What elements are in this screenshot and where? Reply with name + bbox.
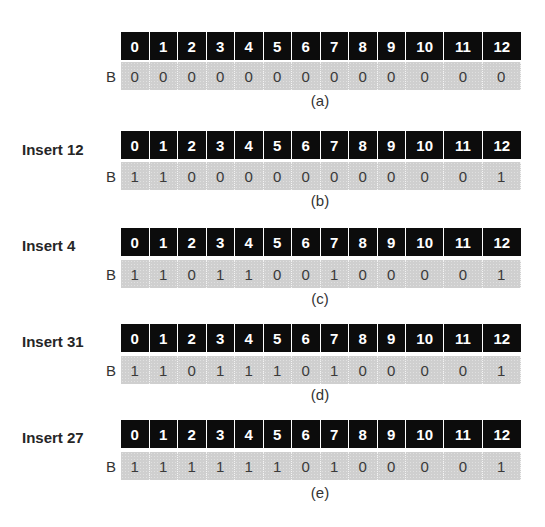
- index-cell: 8: [349, 420, 378, 448]
- index-cell: 1: [150, 420, 179, 448]
- step-label: Insert 12: [22, 141, 84, 158]
- index-cell: 5: [264, 131, 293, 159]
- bit-cell: 1: [121, 162, 150, 190]
- index-header-row: 0123456789101112: [121, 32, 521, 60]
- index-cell: 7: [321, 228, 350, 256]
- bit-cell: 0: [444, 62, 482, 90]
- bit-cell: 1: [121, 452, 150, 480]
- bit-cell: 1: [150, 162, 179, 190]
- index-cell: 12: [483, 420, 521, 448]
- bit-cell: 1: [321, 452, 350, 480]
- index-cell: 6: [292, 324, 321, 352]
- bit-cell: 1: [207, 260, 236, 288]
- index-cell: 7: [321, 131, 350, 159]
- index-cell: 5: [264, 324, 293, 352]
- bit-cell: 0: [207, 62, 236, 90]
- index-cell: 9: [378, 420, 407, 448]
- bit-cell: 0: [378, 62, 407, 90]
- bit-cell: 0: [406, 452, 444, 480]
- index-cell: 8: [349, 228, 378, 256]
- index-cell: 11: [444, 131, 482, 159]
- bit-cell: 1: [321, 260, 350, 288]
- bit-cell: 1: [150, 260, 179, 288]
- step-label: Insert 31: [22, 333, 84, 350]
- index-cell: 1: [150, 131, 179, 159]
- index-cell: 5: [264, 228, 293, 256]
- index-cell: 2: [178, 228, 207, 256]
- index-cell: 12: [483, 228, 521, 256]
- bit-cell: 0: [264, 162, 293, 190]
- bit-cell: 1: [235, 356, 264, 384]
- bit-cell: 0: [406, 62, 444, 90]
- bit-array-label: B: [106, 62, 120, 90]
- index-cell: 9: [378, 324, 407, 352]
- bit-cell: 0: [378, 452, 407, 480]
- bit-array-row: 1100000000001: [121, 162, 521, 190]
- bit-cell: 1: [207, 356, 236, 384]
- index-header-row: 0123456789101112: [121, 131, 521, 159]
- bit-cell: 0: [292, 356, 321, 384]
- index-cell: 6: [292, 228, 321, 256]
- index-cell: 8: [349, 324, 378, 352]
- index-cell: 0: [121, 32, 150, 60]
- bit-cell: 0: [321, 62, 350, 90]
- index-cell: 3: [207, 32, 236, 60]
- index-header-row: 0123456789101112: [121, 420, 521, 448]
- index-cell: 9: [378, 228, 407, 256]
- index-cell: 9: [378, 131, 407, 159]
- bit-array-label: B: [106, 260, 120, 288]
- index-header-row: 0123456789101112: [121, 324, 521, 352]
- step-label: Insert 4: [22, 237, 75, 254]
- bit-cell: 1: [483, 162, 521, 190]
- bit-cell: 1: [150, 356, 179, 384]
- bit-array-label: B: [106, 162, 120, 190]
- bit-array-row: 1101100100001: [121, 260, 521, 288]
- bit-cell: 0: [378, 162, 407, 190]
- index-cell: 4: [235, 324, 264, 352]
- bit-cell: 0: [349, 260, 378, 288]
- step-caption: (e): [300, 484, 340, 501]
- bit-cell: 0: [292, 62, 321, 90]
- index-cell: 1: [150, 32, 179, 60]
- index-cell: 5: [264, 420, 293, 448]
- index-cell: 1: [150, 324, 179, 352]
- bit-array-row: 1111110100001: [121, 452, 521, 480]
- bit-cell: 1: [483, 260, 521, 288]
- bit-array-label: B: [106, 356, 120, 384]
- index-cell: 3: [207, 228, 236, 256]
- index-cell: 2: [178, 131, 207, 159]
- index-cell: 11: [444, 32, 482, 60]
- bit-cell: 1: [321, 356, 350, 384]
- bit-cell: 0: [292, 162, 321, 190]
- index-cell: 10: [406, 324, 444, 352]
- bit-cell: 0: [292, 260, 321, 288]
- index-cell: 4: [235, 131, 264, 159]
- index-cell: 11: [444, 420, 482, 448]
- index-cell: 12: [483, 324, 521, 352]
- index-cell: 10: [406, 228, 444, 256]
- bit-array-row: 1101110100001: [121, 356, 521, 384]
- bit-cell: 0: [235, 162, 264, 190]
- bit-cell: 1: [264, 356, 293, 384]
- index-cell: 8: [349, 131, 378, 159]
- step-caption: (d): [300, 386, 340, 403]
- bit-cell: 1: [121, 356, 150, 384]
- index-cell: 12: [483, 32, 521, 60]
- bit-cell: 0: [150, 62, 179, 90]
- index-cell: 3: [207, 131, 236, 159]
- index-cell: 2: [178, 420, 207, 448]
- bit-array-row: 0000000000000: [121, 62, 521, 90]
- index-cell: 4: [235, 420, 264, 448]
- bit-cell: 0: [178, 260, 207, 288]
- index-cell: 0: [121, 420, 150, 448]
- index-cell: 7: [321, 420, 350, 448]
- bit-cell: 0: [444, 452, 482, 480]
- bit-cell: 0: [349, 162, 378, 190]
- index-cell: 11: [444, 228, 482, 256]
- index-cell: 11: [444, 324, 482, 352]
- index-cell: 0: [121, 324, 150, 352]
- index-cell: 10: [406, 32, 444, 60]
- step-label: Insert 27: [22, 429, 84, 446]
- bit-array-label: B: [106, 452, 120, 480]
- index-cell: 4: [235, 228, 264, 256]
